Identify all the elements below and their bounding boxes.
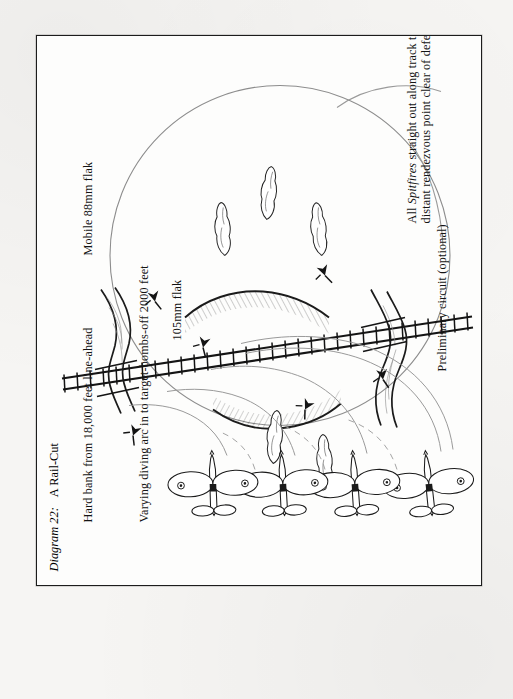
label-mobile-88mm-flak: Mobile 88mm flak xyxy=(81,161,95,255)
label-diving-arc: Varying diving arc in to target-bombs-of… xyxy=(137,265,151,522)
rotated-content-plane: Diagram 22:A Rail-Cut Hard bank from 18,… xyxy=(37,36,481,585)
label-hard-bank: Hard bank from 18,000 feet line-ahead xyxy=(81,327,95,522)
copse-group xyxy=(213,165,334,487)
diagram-caption: Diagram 22:A Rail-Cut xyxy=(47,443,62,571)
label-egress-instruction: All Spitfires straight out along track t… xyxy=(405,35,434,223)
spitfire-4 xyxy=(167,448,259,516)
egress-spitfires-emphasis: Spitfires xyxy=(405,162,419,204)
label-preliminary-circuit: Preliminary circuit (optional) xyxy=(435,224,449,371)
caption-title: A Rail-Cut xyxy=(47,443,61,497)
egress-line-1-post: straight out along track to xyxy=(405,35,419,162)
flak-symbol xyxy=(312,264,333,287)
river-lower xyxy=(361,289,407,427)
caption-number: Diagram 22: xyxy=(47,507,61,571)
label-105mm-flak: 105mm flak xyxy=(170,279,184,340)
river-upper xyxy=(95,287,139,413)
diagram-plate: Diagram 22:A Rail-Cut Hard bank from 18,… xyxy=(36,35,482,586)
egress-line-1: All Spitfires straight out along track t… xyxy=(405,35,419,223)
diving-arc-dashes xyxy=(219,419,397,469)
scan-page-background: Diagram 22:A Rail-Cut Hard bank from 18,… xyxy=(0,0,513,699)
egress-line-1-pre: All xyxy=(405,204,419,223)
egress-line-2: distant rendezvous point clear of defenc… xyxy=(419,35,433,223)
